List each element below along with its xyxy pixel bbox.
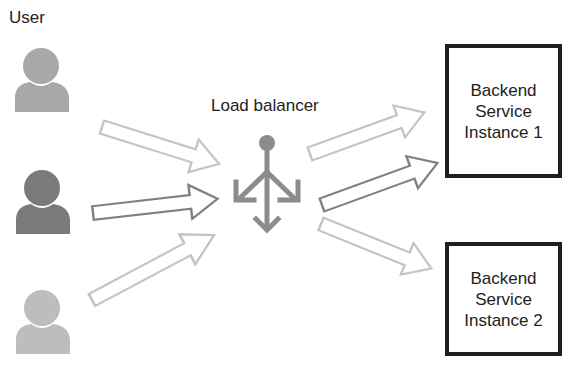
backend-2-line2: Service <box>475 289 532 310</box>
arrow-user2-to-lb <box>91 182 219 230</box>
user-icon-1 <box>15 48 69 112</box>
user-icon-3 <box>16 290 70 354</box>
backend-1-line2: Service <box>475 101 532 122</box>
arrow-user3-to-lb <box>84 220 222 315</box>
backend-service-instance-2: Backend Service Instance 2 <box>445 242 562 356</box>
arrow-lb-to-backend2 <box>315 208 438 284</box>
arrow-user1-to-lb <box>97 111 224 180</box>
load-balancer-label: Load balancer <box>211 96 319 116</box>
backend-1-line1: Backend <box>470 80 536 101</box>
arrow-lb-to-backend1-b <box>316 147 443 221</box>
load-balancer-icon <box>236 135 298 230</box>
user-icon-2 <box>16 170 70 234</box>
user-label: User <box>9 8 45 28</box>
backend-service-instance-1: Backend Service Instance 1 <box>445 44 562 178</box>
backend-1-line3: Instance 1 <box>464 122 542 143</box>
backend-2-line1: Backend <box>470 268 536 289</box>
backend-2-line3: Instance 2 <box>464 310 542 331</box>
